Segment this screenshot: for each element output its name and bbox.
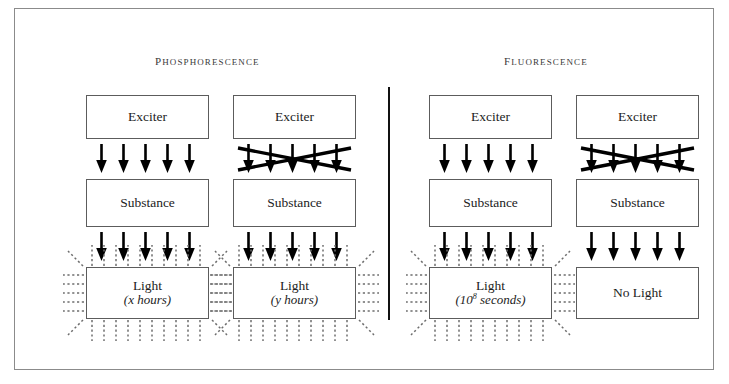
exciter-label: Exciter bbox=[618, 109, 657, 125]
light-duration-label: (x hours) bbox=[124, 293, 171, 308]
light-duration-label: (y hours) bbox=[271, 293, 318, 308]
light-output-wrapper: Light (y hours) bbox=[233, 267, 356, 319]
light-label: Light bbox=[476, 278, 505, 294]
arrows-exciter-to-substance bbox=[429, 139, 552, 179]
no-light-output-wrapper: No Light bbox=[576, 267, 699, 319]
light-box: Light (108 seconds) bbox=[429, 267, 552, 319]
column-fluo-removed: Exciter S bbox=[576, 95, 699, 319]
substance-box: Substance bbox=[233, 179, 356, 227]
substance-label: Substance bbox=[267, 195, 322, 211]
light-box: Light (y hours) bbox=[233, 267, 356, 319]
arrows-substance-to-output bbox=[576, 227, 699, 267]
exciter-label: Exciter bbox=[471, 109, 510, 125]
light-output-wrapper: Light (108 seconds) bbox=[429, 267, 552, 319]
section-title-phosphorescence: Phosphorescence bbox=[155, 51, 260, 69]
substance-label: Substance bbox=[120, 195, 175, 211]
arrow-group-icon bbox=[429, 227, 552, 267]
substance-box: Substance bbox=[429, 179, 552, 227]
exciter-label: Exciter bbox=[275, 109, 314, 125]
column-fluo-continued: Exciter Substance bbox=[429, 95, 552, 319]
duration-prefix: (10 bbox=[455, 292, 472, 307]
arrow-group-icon bbox=[576, 227, 699, 267]
substance-box: Substance bbox=[576, 179, 699, 227]
diagram-frame: Phosphorescence Fluorescence Exciter bbox=[14, 8, 714, 370]
exciter-box: Exciter bbox=[86, 95, 209, 139]
substance-label: Substance bbox=[610, 195, 665, 211]
duration-suffix: seconds) bbox=[477, 292, 526, 307]
light-box: Light (x hours) bbox=[86, 267, 209, 319]
exciter-label: Exciter bbox=[128, 109, 167, 125]
light-label: Light bbox=[280, 278, 309, 294]
exciter-box: Exciter bbox=[576, 95, 699, 139]
light-output-wrapper: Light (x hours) bbox=[86, 267, 209, 319]
arrows-exciter-to-substance bbox=[86, 139, 209, 179]
arrow-group-icon bbox=[429, 139, 552, 179]
no-light-label: No Light bbox=[613, 285, 662, 301]
exciter-box: Exciter bbox=[233, 95, 356, 139]
section-title-fluorescence: Fluorescence bbox=[504, 51, 588, 69]
arrows-exciter-to-substance-blocked bbox=[576, 139, 699, 179]
substance-box: Substance bbox=[86, 179, 209, 227]
no-light-box: No Light bbox=[576, 267, 699, 319]
arrows-substance-to-output bbox=[429, 227, 552, 267]
light-label: Light bbox=[133, 278, 162, 294]
substance-label: Substance bbox=[463, 195, 518, 211]
blocked-arrow-group-icon bbox=[576, 139, 699, 179]
diagram-page: Phosphorescence Fluorescence Exciter bbox=[0, 0, 729, 384]
section-divider bbox=[388, 87, 390, 320]
light-duration-label: (108 seconds) bbox=[455, 293, 525, 308]
arrows-substance-to-output bbox=[233, 227, 356, 267]
blocked-arrow-group-icon bbox=[233, 139, 356, 179]
arrow-group-icon bbox=[233, 227, 356, 267]
column-phos-continued: Exciter Substance bbox=[86, 95, 209, 319]
arrow-group-icon bbox=[86, 227, 209, 267]
exciter-box: Exciter bbox=[429, 95, 552, 139]
arrow-group-icon bbox=[86, 139, 209, 179]
arrows-exciter-to-substance-blocked bbox=[233, 139, 356, 179]
arrows-substance-to-output bbox=[86, 227, 209, 267]
column-phos-removed: Exciter S bbox=[233, 95, 356, 319]
